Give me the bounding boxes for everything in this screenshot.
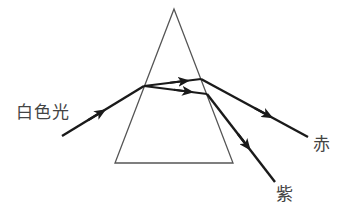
violet-ray-outside xyxy=(207,94,275,182)
label-white-light: 白色光 xyxy=(16,104,70,121)
arrow-icon xyxy=(170,81,184,83)
incident-white-ray xyxy=(62,86,144,136)
label-red: 赤 xyxy=(313,136,330,153)
prism-dispersion-diagram: 白色光 赤 紫 xyxy=(0,0,341,214)
arrow-icon xyxy=(88,112,101,120)
arrow-icon xyxy=(238,134,247,146)
arrow-icon xyxy=(255,108,268,115)
label-violet: 紫 xyxy=(276,186,293,203)
violet-ray-inside xyxy=(144,86,207,94)
arrow-icon xyxy=(174,90,188,92)
red-ray-inside xyxy=(144,79,201,86)
